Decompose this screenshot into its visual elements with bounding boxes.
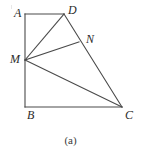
figure-caption: (a) xyxy=(0,134,141,146)
geometry-figure-panel: A D M N B C (a) xyxy=(0,0,141,154)
vertex-label-B: B xyxy=(27,109,34,121)
vertex-label-D: D xyxy=(68,4,77,16)
scan-artifact-speck xyxy=(11,5,12,9)
geometry-diagram xyxy=(0,0,141,154)
vertex-label-N: N xyxy=(86,33,94,45)
vertex-label-A: A xyxy=(14,7,21,19)
vertex-label-C: C xyxy=(125,109,133,121)
vertex-label-M: M xyxy=(10,53,20,65)
